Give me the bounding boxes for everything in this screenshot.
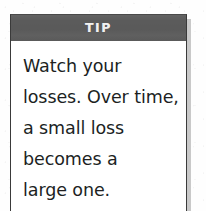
page-canvas: TIP Watch your losses. Over time, a smal… xyxy=(0,0,206,211)
tip-callout-box: TIP Watch your losses. Over time, a smal… xyxy=(10,14,187,211)
tip-header-band: TIP xyxy=(11,15,186,41)
tip-body-text: Watch your losses. Over time, a small lo… xyxy=(11,41,186,206)
tip-body-line: large one. xyxy=(23,175,177,206)
tip-body-line: becomes a xyxy=(23,144,177,175)
tip-body-line: Watch your xyxy=(23,51,177,82)
tip-body-line: losses. Over time, xyxy=(23,82,177,113)
tip-header-label: TIP xyxy=(85,22,112,35)
tip-body-line: a small loss xyxy=(23,113,177,144)
